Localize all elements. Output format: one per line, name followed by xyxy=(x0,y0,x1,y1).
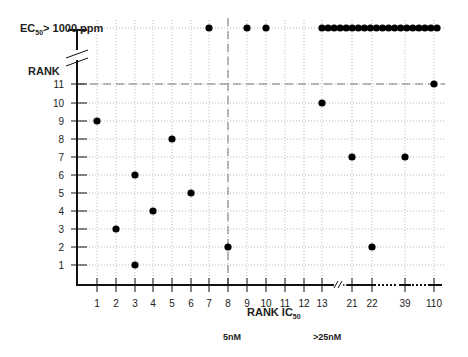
annotation-25nm: >25nM xyxy=(313,332,341,342)
y-tick-label: 3 xyxy=(58,224,64,235)
x-tick-label: 3 xyxy=(132,298,138,309)
data-point xyxy=(187,189,194,196)
data-point xyxy=(401,153,408,160)
x-tick-label: 13 xyxy=(316,298,328,309)
data-point xyxy=(131,171,138,178)
data-point xyxy=(318,99,325,106)
x-tick-label: 110 xyxy=(426,298,442,309)
y-tick-label: 1 xyxy=(58,260,64,271)
y-axis-break-mark xyxy=(66,50,88,58)
y-tick-label: 6 xyxy=(58,170,64,181)
data-point xyxy=(243,24,250,31)
data-point xyxy=(224,243,231,250)
data-point xyxy=(430,80,437,87)
x-tick-label: 39 xyxy=(399,298,411,309)
x-axis-break-mark xyxy=(338,281,342,288)
grid-lines xyxy=(77,20,445,285)
data-point xyxy=(131,261,138,268)
x-tick-label: 8 xyxy=(225,298,231,309)
data-point xyxy=(112,225,119,232)
data-point xyxy=(149,207,156,214)
data-points xyxy=(93,24,440,268)
data-point-top-row xyxy=(433,24,440,31)
annotation-5nm: 5nM xyxy=(223,332,241,342)
x-axis-label: RANK IC50 xyxy=(247,306,301,320)
x-tick-label: 6 xyxy=(188,298,194,309)
data-point xyxy=(368,243,375,250)
y-tick-label: 10 xyxy=(53,98,65,109)
y-tick-label: 7 xyxy=(58,152,64,163)
y-axis-label: RANK xyxy=(28,65,60,77)
x-tick-label: 7 xyxy=(206,298,212,309)
tick-marks: 123456789101112345678910111213212239110 xyxy=(53,79,443,309)
x-tick-label: 22 xyxy=(366,298,378,309)
y-tick-label: 4 xyxy=(58,206,64,217)
x-tick-label: 12 xyxy=(298,298,310,309)
data-point xyxy=(168,135,175,142)
y-tick-label: 11 xyxy=(54,79,65,90)
x-tick-label: 21 xyxy=(346,298,358,309)
x-tick-label: 1 xyxy=(94,298,100,309)
scatter-chart: 123456789101112345678910111213212239110 … xyxy=(0,0,468,357)
reference-lines xyxy=(77,18,445,285)
y-tick-label: 8 xyxy=(58,134,64,145)
y-tick-label: 2 xyxy=(58,242,64,253)
axes xyxy=(66,30,442,288)
x-tick-label: 4 xyxy=(150,298,156,309)
x-tick-label: 5 xyxy=(169,298,175,309)
data-point xyxy=(93,117,100,124)
data-point xyxy=(205,24,212,31)
x-tick-label: 2 xyxy=(113,298,119,309)
y-tick-label: 9 xyxy=(58,116,64,127)
data-point xyxy=(262,24,269,31)
x-axis-break-mark xyxy=(334,281,338,288)
top-band-label: EC50> 1000 ppm xyxy=(20,22,104,36)
y-tick-label: 5 xyxy=(58,188,64,199)
data-point xyxy=(348,153,355,160)
